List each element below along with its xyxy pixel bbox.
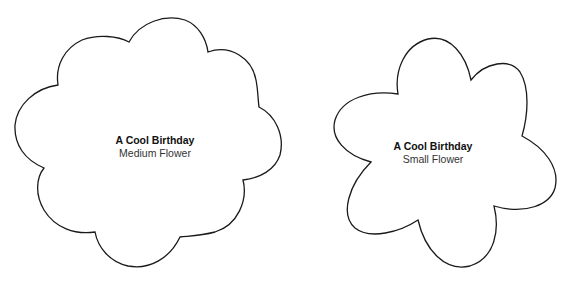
medium-flower-title: A Cool Birthday (95, 134, 215, 147)
small-flower-label: A Cool Birthday Small Flower (378, 140, 488, 166)
small-flower-subtitle: Small Flower (378, 153, 488, 166)
medium-flower-label: A Cool Birthday Medium Flower (95, 134, 215, 160)
medium-flower-subtitle: Medium Flower (95, 147, 215, 160)
small-flower-title: A Cool Birthday (378, 140, 488, 153)
